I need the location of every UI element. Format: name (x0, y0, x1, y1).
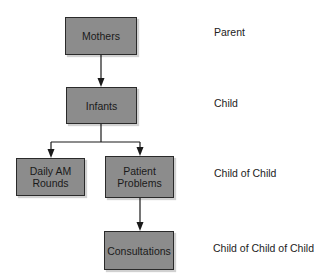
node-consultations: Consultations (104, 231, 174, 270)
node-daily-am-rounds: Daily AM Rounds (16, 158, 85, 196)
node-mothers: Mothers (65, 17, 137, 55)
level-label-child-of-child: Child of Child (214, 167, 276, 179)
node-label: Patient Problems (117, 165, 161, 189)
node-label: Daily AM Rounds (30, 165, 71, 189)
node-infants: Infants (66, 87, 137, 124)
node-label: Mothers (82, 30, 120, 42)
node-label: Consultations (107, 245, 171, 257)
level-label-parent: Parent (214, 26, 245, 38)
level-label-child: Child (214, 97, 238, 109)
node-label: Infants (86, 100, 118, 112)
node-patient-problems: Patient Problems (105, 156, 174, 198)
level-label-child-of-child-of-child: Child of Child of Child (213, 242, 314, 254)
